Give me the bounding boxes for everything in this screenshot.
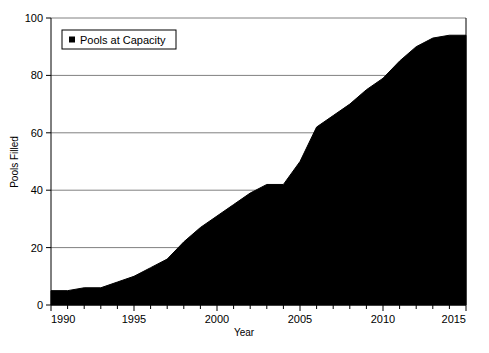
x-axis-title: Year [234, 327, 255, 338]
chart-container: 020406080100 199019952000200520102015 Ye… [0, 0, 489, 353]
legend: Pools at Capacity [62, 30, 176, 49]
area-chart: 020406080100 199019952000200520102015 Ye… [0, 0, 489, 353]
y-axis-title: Pools Filled [9, 136, 20, 188]
y-tick-label-60: 60 [31, 127, 43, 139]
y-tick-label-100: 100 [25, 12, 43, 24]
x-tick-label-1995: 1995 [122, 313, 146, 325]
x-axis-ticks: 199019952000200520102015 [51, 305, 466, 325]
legend-label-pools-at-capacity: Pools at Capacity [80, 34, 166, 46]
legend-square-marker-icon [69, 37, 75, 43]
y-tick-label-40: 40 [31, 184, 43, 196]
y-axis-ticks: 020406080100 [25, 12, 51, 311]
y-tick-label-80: 80 [31, 69, 43, 81]
x-tick-label-2010: 2010 [371, 313, 395, 325]
x-tick-label-2015: 2015 [442, 313, 466, 325]
y-tick-label-20: 20 [31, 242, 43, 254]
x-tick-label-1990: 1990 [51, 313, 75, 325]
x-tick-label-2000: 2000 [205, 313, 229, 325]
x-tick-label-2005: 2005 [288, 313, 312, 325]
y-tick-label-0: 0 [37, 299, 43, 311]
